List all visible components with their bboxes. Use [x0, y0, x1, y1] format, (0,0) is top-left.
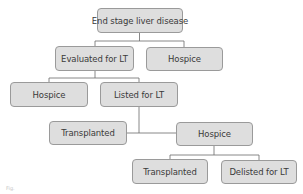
figure-caption: Fig. [6, 185, 15, 191]
node-transplanted-level4: Transplanted [49, 121, 127, 145]
node-end-stage-liver-disease: End stage liver disease [97, 8, 183, 33]
node-hospice-level3: Hospice [10, 82, 88, 107]
node-transplanted-level5: Transplanted [132, 159, 208, 184]
node-listed-for-lt: Listed for LT [100, 82, 178, 107]
node-hospice-level4: Hospice [176, 122, 253, 146]
node-hospice-level2: Hospice [146, 47, 223, 71]
node-evaluated-for-lt: Evaluated for LT [55, 46, 134, 71]
node-delisted-for-lt: Delisted for LT [221, 160, 297, 184]
